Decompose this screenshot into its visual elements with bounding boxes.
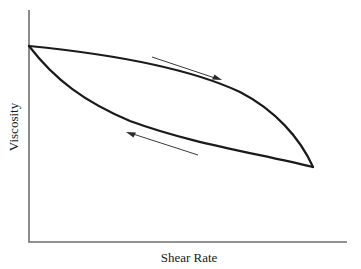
x-axis-label: Shear Rate xyxy=(161,250,218,265)
viscosity-shear-rate-chart: Viscosity Shear Rate xyxy=(0,0,361,269)
y-axis-label: Viscosity xyxy=(6,102,21,151)
chart-background xyxy=(0,0,361,269)
